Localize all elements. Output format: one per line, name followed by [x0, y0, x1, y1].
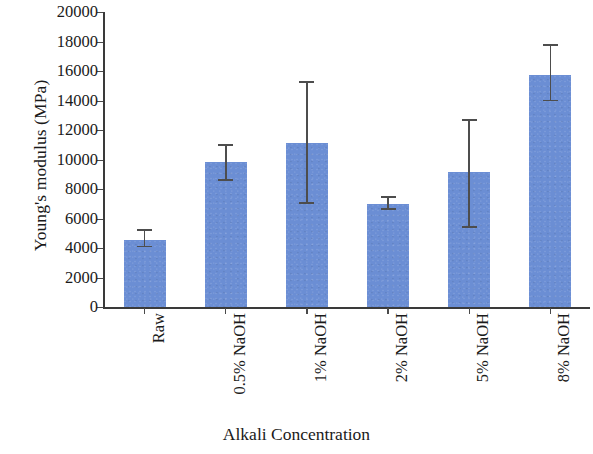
y-tick-label: 6000	[65, 209, 98, 229]
bar	[124, 240, 166, 307]
x-tick-label: 0.5% NaOH	[232, 313, 249, 395]
chart-figure: Young's modulus (MPa) 020004000600080001…	[0, 0, 593, 454]
y-tick-label: 10000	[57, 150, 98, 170]
x-tick-label: 2% NaOH	[394, 313, 411, 382]
y-tick-label: 12000	[57, 120, 98, 140]
y-tick-label: 0	[90, 297, 98, 317]
error-bar-cap-bottom	[462, 226, 477, 228]
bar	[367, 204, 409, 307]
error-bar-cap-bottom	[381, 208, 396, 210]
error-bar-cap-bottom	[299, 202, 314, 204]
y-tick-label: 16000	[57, 61, 98, 81]
x-tick-mark	[469, 308, 470, 314]
x-tick-mark	[550, 308, 551, 314]
error-bar-line	[468, 120, 470, 227]
error-bar-cap-bottom	[137, 246, 152, 248]
error-bar-cap-bottom	[218, 179, 233, 181]
error-bar-cap-top	[218, 144, 233, 146]
error-bar-line	[225, 145, 227, 180]
error-bar-cap-top	[299, 81, 314, 83]
error-bar-cap-top	[137, 229, 152, 231]
y-tick-label: 8000	[65, 179, 98, 199]
x-tick-mark	[144, 308, 145, 314]
x-tick-mark	[387, 308, 388, 314]
error-bar-line	[550, 45, 552, 100]
x-tick-mark	[306, 308, 307, 314]
bar	[529, 75, 571, 307]
error-bar-cap-top	[543, 44, 558, 46]
x-tick-label: Raw	[151, 313, 168, 343]
x-axis-title: Alkali Concentration	[0, 424, 593, 445]
error-bar-line	[144, 230, 146, 246]
x-axis-line	[103, 307, 590, 309]
y-tick-label: 20000	[57, 2, 98, 22]
x-tick-label: 5% NaOH	[475, 313, 492, 382]
y-tick-label: 18000	[57, 32, 98, 52]
error-bar-cap-top	[462, 119, 477, 121]
y-axis-title: Young's modulus (MPa)	[30, 6, 51, 326]
y-tick-label: 14000	[57, 91, 98, 111]
x-tick-label: 8% NaOH	[556, 313, 573, 382]
error-bar-cap-top	[381, 196, 396, 198]
y-axis-line	[103, 12, 105, 308]
error-bar-line	[306, 82, 308, 203]
y-tick-label: 2000	[65, 268, 98, 288]
error-bar-cap-bottom	[543, 100, 558, 102]
x-tick-label: 1% NaOH	[313, 313, 330, 382]
y-tick-label: 4000	[65, 238, 98, 258]
x-tick-mark	[225, 308, 226, 314]
bar	[205, 162, 247, 307]
plot-area: 0200040006000800010000120001400016000180…	[103, 12, 590, 307]
